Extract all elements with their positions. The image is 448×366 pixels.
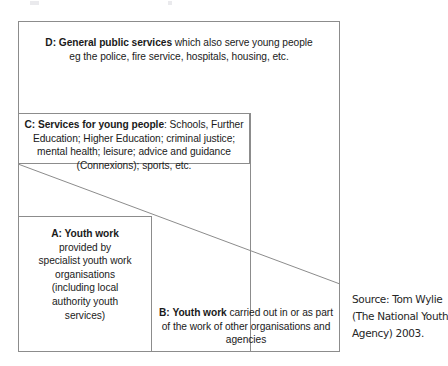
box-a-line-6: authority youth <box>18 295 152 309</box>
box-a-line-7: services) <box>18 309 152 323</box>
box-a-line-4: organisations <box>18 268 152 282</box>
box-c-line-3: mental health; leisure; advice and guida… <box>18 145 250 159</box>
box-a-line-1: A: Youth work <box>18 227 152 241</box>
box-c-line-2: Education; Higher Education; criminal ju… <box>18 132 250 146</box>
box-b-title: Youth work <box>172 307 226 318</box>
box-a-line-2: provided by <box>18 241 152 255</box>
scan-artifact <box>168 1 172 5</box>
box-a-label: A: Youth work provided by specialist you… <box>18 227 152 322</box>
scan-artifact <box>30 1 39 5</box>
box-b-prefix: B: <box>159 307 170 318</box>
box-c-line-4: (Connexions); sports, etc. <box>18 159 250 173</box>
box-b-line-1: B: Youth work carried out in or as part <box>152 306 340 320</box>
source-line-1: Source: Tom Wylie <box>352 291 446 308</box>
box-a-prefix: A: <box>51 228 62 239</box>
box-c-title: Services for young people <box>38 119 164 130</box>
box-d-line-2: eg the police, fire service, hospitals, … <box>18 50 340 64</box>
box-d-prefix: D: <box>45 37 56 48</box>
box-c-prefix: C: <box>24 119 35 130</box>
box-d-label: D: General public services which also se… <box>18 36 340 65</box>
source-line-3: Agency) 2003. <box>352 325 446 342</box>
box-b-rest: carried out in or as part <box>227 307 333 318</box>
box-a-title: Youth work <box>65 228 119 239</box>
box-a-line-5: (including local <box>18 281 152 295</box>
box-c-rest: : Schools, Further <box>164 119 244 130</box>
diagram-canvas: D: General public services which also se… <box>0 0 448 366</box>
box-d-title: General public services <box>59 37 172 48</box>
box-b-line-2: of the work of other organisations and <box>152 320 340 334</box>
source-caption: Source: Tom Wylie (The National Youth Ag… <box>352 291 446 342</box>
box-a-line-3: specialist youth work <box>18 254 152 268</box>
source-line-2: (The National Youth <box>352 308 446 325</box>
box-d-rest: which also serve young people <box>172 37 313 48</box>
box-c-label: C: Services for young people: Schools, F… <box>18 118 250 172</box>
box-c-line-1: C: Services for young people: Schools, F… <box>18 118 250 132</box>
box-b-line-3: agencies <box>152 333 340 347</box>
box-d-line-1: D: General public services which also se… <box>18 36 340 50</box>
box-b-label: B: Youth work carried out in or as part … <box>152 306 340 347</box>
